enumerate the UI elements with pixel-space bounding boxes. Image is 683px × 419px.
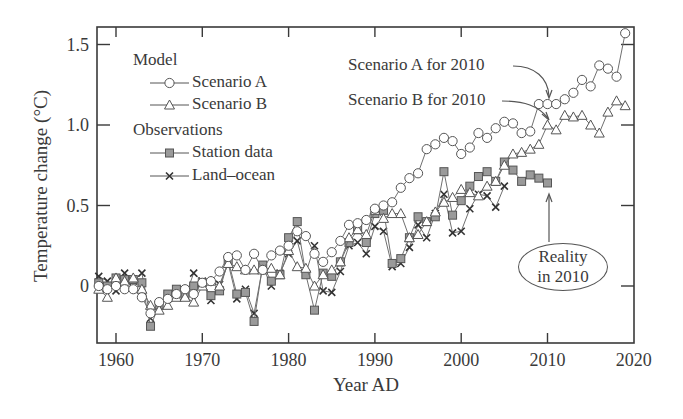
- y-tick-label: 1.5: [67, 35, 90, 55]
- legend-heading-model: Model: [133, 50, 177, 70]
- legend-item-scenario-b: Scenario B: [192, 94, 267, 114]
- y-tick-label: 0.5: [67, 196, 90, 216]
- y-axis-label: Temperature change (°C): [30, 90, 52, 282]
- x-tick-label: 1960: [98, 350, 134, 370]
- annotation-arrows: [502, 66, 552, 242]
- annotation-reality-2010: Reality in 2010: [518, 243, 608, 291]
- x-tick-label: 2010: [530, 350, 566, 370]
- arrow-scenario-a: [513, 66, 549, 96]
- legend-item-station-data: Station data: [192, 142, 273, 162]
- y-tick-label: 0: [80, 276, 89, 296]
- y-tick-label: 1.0: [67, 115, 90, 135]
- x-tick-label: 1980: [271, 350, 307, 370]
- reality-line-1: Reality: [519, 247, 607, 267]
- x-tick-label: 1990: [357, 350, 393, 370]
- x-tick-label: 2000: [443, 350, 479, 370]
- legend-item-land-ocean: Land–ocean: [192, 165, 275, 185]
- legend-item-scenario-a: Scenario A: [192, 72, 267, 92]
- annotation-scenario-a-2010: Scenario A for 2010: [348, 55, 484, 75]
- reality-line-2: in 2010: [519, 267, 607, 287]
- x-axis-label: Year AD: [333, 374, 399, 395]
- annotation-scenario-b-2010: Scenario B for 2010: [348, 90, 485, 110]
- x-axis-ticks: 1960197019801990200020102020: [98, 27, 652, 370]
- x-tick-label: 1970: [184, 350, 220, 370]
- x-tick-label: 2020: [616, 350, 652, 370]
- temperature-chart: 1960197019801990200020102020 00.51.01.5 …: [0, 0, 683, 419]
- legend-heading-observations: Observations: [133, 120, 223, 140]
